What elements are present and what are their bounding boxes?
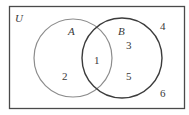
element-4: 4 (160, 20, 166, 32)
element-6: 6 (160, 87, 166, 99)
element-3: 3 (126, 39, 132, 51)
set-a-label: A (67, 25, 75, 37)
element-1: 1 (94, 54, 100, 66)
element-5: 5 (126, 70, 132, 82)
element-2: 2 (62, 70, 68, 82)
set-b-label: B (118, 25, 125, 37)
universe-label: U (15, 12, 24, 24)
venn-diagram: U A B 1 2 3 4 5 6 (0, 0, 189, 115)
